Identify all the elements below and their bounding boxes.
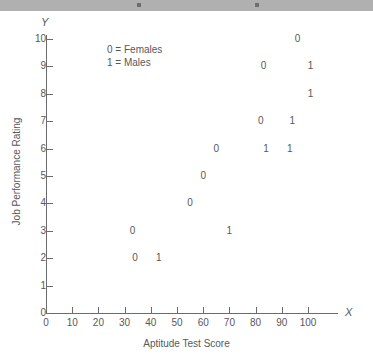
y-axis-title: Job Performance Rating [11,102,22,242]
y-tick-label-8: 8 [6,89,46,99]
legend: 0 = Females 1 = Males [107,43,162,69]
y-tick-6 [47,149,53,150]
data-point: 0 [209,144,223,154]
y-axis-letter: Y [41,17,48,28]
legend-item-males: 1 = Males [107,56,162,69]
y-tick-1 [47,286,53,287]
x-tick-100 [308,307,309,313]
legend-item-females: 0 = Females [107,43,162,56]
data-point: 0 [125,226,139,236]
x-axis-letter: X [345,307,352,318]
x-tick-40 [151,307,152,313]
data-point: 1 [152,253,166,263]
data-point: 1 [304,89,318,99]
data-point: 0 [256,61,270,71]
chrome-notch-left [137,3,141,7]
y-tick-7 [47,121,53,122]
x-axis-title: Aptitude Test Score [0,338,373,349]
data-point: 0 [291,34,305,44]
data-point: 0 [128,253,142,263]
x-axis-line [46,313,338,314]
y-tick-3 [47,231,53,232]
data-point: 1 [304,61,318,71]
x-tick-90 [282,307,283,313]
data-point: 1 [222,226,236,236]
data-point: 1 [285,116,299,126]
data-point: 0 [183,198,197,208]
y-tick-8 [47,94,53,95]
y-tick-label-1: 1 [6,281,46,291]
x-tick-10 [72,307,73,313]
chrome-notch-right [255,3,259,7]
y-tick-label-2: 2 [6,253,46,263]
x-tick-label-100: 100 [293,318,323,328]
data-point: 0 [254,116,268,126]
scatter-plot-figure: Y X 012345678910 0102030405060708090100 … [0,11,373,360]
y-tick-label-0: 0 [6,308,46,318]
y-tick-5 [47,176,53,177]
x-tick-50 [177,307,178,313]
data-point: 1 [259,144,273,154]
x-tick-60 [203,307,204,313]
y-axis-line [46,35,47,314]
y-tick-2 [47,258,53,259]
data-point: 0 [196,171,210,181]
y-tick-label-9: 9 [6,61,46,71]
x-tick-20 [98,307,99,313]
y-tick-4 [47,203,53,204]
x-tick-30 [125,307,126,313]
y-tick-10 [47,39,53,40]
x-tick-80 [256,307,257,313]
x-tick-70 [229,307,230,313]
y-tick-label-10: 10 [6,34,46,44]
y-tick-9 [47,66,53,67]
data-point: 1 [283,144,297,154]
